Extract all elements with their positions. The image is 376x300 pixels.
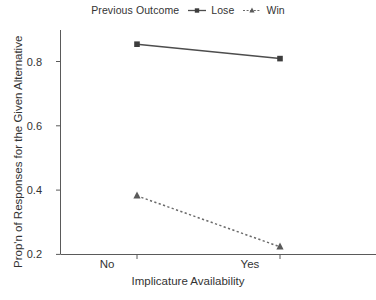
chart-figure: Previous Outcome Lose Win bbox=[0, 0, 376, 300]
x-axis-title: Implicature Availability bbox=[0, 275, 376, 287]
y-tick-marks bbox=[56, 62, 61, 255]
series-lose-point-no bbox=[134, 41, 140, 47]
series-win-point-no bbox=[133, 192, 140, 199]
series-win-line bbox=[137, 196, 280, 247]
x-tick-label-no: No bbox=[77, 258, 137, 270]
y-axis-title-wrap: Prop'n of Responses for the Given Altern… bbox=[0, 0, 16, 300]
plot-area bbox=[0, 0, 376, 300]
series-lose bbox=[134, 41, 283, 61]
series-win bbox=[133, 192, 283, 250]
series-lose-point-yes bbox=[277, 56, 283, 62]
x-tick-label-yes: Yes bbox=[220, 258, 280, 270]
y-axis-title: Prop'n of Responses for the Given Altern… bbox=[12, 36, 24, 268]
series-lose-line bbox=[137, 44, 280, 58]
